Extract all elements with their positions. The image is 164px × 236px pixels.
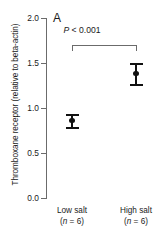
y-tick-0-0 [41, 198, 46, 199]
y-ticklabel-0-5: 0.5 [13, 149, 39, 157]
y-tick-2-0 [41, 18, 46, 19]
n-value: = 6) [67, 217, 84, 226]
x-label-low-salt: Low salt (n = 6) [37, 206, 107, 227]
y-tick-1-5 [41, 63, 46, 64]
y-axis-line [46, 18, 47, 199]
x-label-low-salt-name: Low salt [37, 206, 107, 217]
error-bar-cap-lower-low-salt [66, 127, 79, 129]
y-ticklabel-1-0: 1.0 [13, 104, 39, 112]
marker-high-salt [133, 71, 138, 76]
marker-low-salt [69, 118, 74, 123]
x-label-low-salt-n: (n = 6) [37, 217, 107, 228]
y-tick-1-0 [41, 108, 46, 109]
y-ticklabel-1-5: 1.5 [13, 59, 39, 67]
n-value: = 6) [131, 217, 148, 226]
x-label-high-salt: High salt (n = 6) [101, 206, 164, 227]
error-bar-cap-upper-high-salt [130, 63, 143, 65]
figure-panel: Thromboxane receptor (relative to beta-a… [0, 0, 164, 236]
x-label-high-salt-n: (n = 6) [101, 217, 164, 228]
error-bar-cap-upper-low-salt [66, 114, 79, 116]
y-tick-0-5 [41, 153, 46, 154]
error-bar-cap-lower-high-salt [130, 84, 143, 86]
x-label-high-salt-name: High salt [101, 206, 164, 217]
p-value-annotation: P < 0.001 [0, 26, 164, 35]
panel-label: A [53, 12, 61, 24]
y-ticklabel-2-0: 2.0 [13, 14, 39, 22]
y-ticklabel-0-0: 0.0 [13, 194, 39, 202]
p-value-text: < 0.001 [69, 25, 100, 35]
significance-bracket [72, 45, 137, 51]
